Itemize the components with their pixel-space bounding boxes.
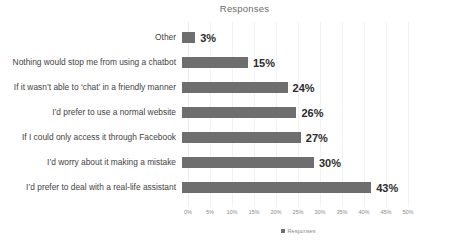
category-label: Nothing would stop me from using a chatb… (0, 58, 182, 68)
bar-value-label: 15% (253, 57, 275, 69)
bar-row: Nothing would stop me from using a chatb… (0, 50, 449, 75)
category-label: I’d prefer to deal with a real-life assi… (0, 183, 182, 193)
bar[interactable] (182, 107, 296, 118)
bar-container: 24% (182, 75, 449, 100)
bar-row: I’d prefer to deal with a real-life assi… (0, 175, 449, 200)
bar-row: If it wasn’t able to ‘chat’ in a friendl… (0, 75, 449, 100)
legend-label: Responses (288, 228, 316, 234)
bar-row: Other3% (0, 25, 449, 50)
bar[interactable] (182, 182, 371, 193)
bar[interactable] (182, 57, 248, 68)
bar-chart: Responses Other3%Nothing would stop me f… (0, 0, 449, 247)
bar-container: 30% (182, 150, 449, 175)
bar-container: 15% (182, 50, 449, 75)
bar-container: 26% (182, 100, 449, 125)
bar-container: 3% (182, 25, 449, 50)
category-label: If it wasn’t able to ‘chat’ in a friendl… (0, 83, 182, 93)
bar-value-label: 26% (301, 107, 323, 119)
bar[interactable] (182, 32, 195, 43)
legend-swatch-icon (281, 229, 285, 233)
bar-value-label: 30% (319, 157, 341, 169)
category-label: Other (0, 33, 182, 43)
bar-rows: Other3%Nothing would stop me from using … (0, 22, 449, 207)
x-axis-tick-label: 35% (336, 209, 347, 215)
bar-value-label: 24% (293, 82, 315, 94)
x-axis-tick-label: 20% (270, 209, 281, 215)
bar-value-label: 3% (200, 32, 216, 44)
category-label: If I could only access it through Facebo… (0, 133, 182, 143)
x-axis-tick-label: 40% (358, 209, 369, 215)
bar-row: If I could only access it through Facebo… (0, 125, 449, 150)
x-axis-tick-label: 15% (248, 209, 259, 215)
plot-area: Other3%Nothing would stop me from using … (0, 22, 449, 207)
x-axis: 0%5%10%15%20%25%30%35%40%45%50% (188, 209, 408, 221)
chart-title: Responses (0, 3, 449, 14)
x-axis-tick-label: 30% (314, 209, 325, 215)
x-axis-tick-label: 0% (184, 209, 192, 215)
category-label: I’d worry about it making a mistake (0, 158, 182, 168)
bar[interactable] (182, 157, 314, 168)
x-axis-tick-label: 10% (226, 209, 237, 215)
bar-value-label: 43% (376, 182, 398, 194)
category-label: I’d prefer to use a normal website (0, 108, 182, 118)
x-axis-tick-label: 5% (206, 209, 214, 215)
legend: Responses (188, 228, 408, 234)
bar[interactable] (182, 82, 288, 93)
bar-row: I’d prefer to use a normal website26% (0, 100, 449, 125)
bar-container: 43% (182, 175, 449, 200)
bar-value-label: 27% (306, 132, 328, 144)
x-axis-tick-label: 45% (380, 209, 391, 215)
bar-row: I’d worry about it making a mistake30% (0, 150, 449, 175)
x-axis-tick-label: 50% (402, 209, 413, 215)
x-axis-tick-label: 25% (292, 209, 303, 215)
bar[interactable] (182, 132, 301, 143)
bar-container: 27% (182, 125, 449, 150)
